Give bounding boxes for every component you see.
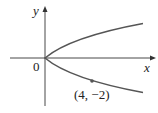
x-axis-label: x: [144, 61, 150, 74]
y-axis-label: y: [33, 4, 39, 17]
origin-label: 0: [33, 60, 40, 73]
point-marker: [90, 79, 94, 83]
y-axis-arrow-icon: [43, 6, 48, 12]
x-axis-arrow-icon: [150, 56, 156, 61]
point-label: (4, −2): [74, 88, 110, 101]
